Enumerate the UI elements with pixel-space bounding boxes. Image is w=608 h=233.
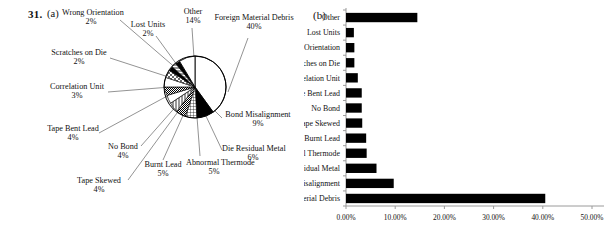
- bar-category-label: Scratches on Die: [304, 59, 340, 68]
- bar-burnt-lead: [346, 133, 366, 142]
- figure-number: 31.: [28, 8, 42, 20]
- pie-label-name: Scratches on Die: [51, 48, 106, 57]
- pie-label-lost-units: Lost Units 2%: [126, 20, 170, 39]
- x-axis-tick-label: 0.00%: [336, 213, 355, 222]
- bar-foreign-material-debris: [346, 194, 545, 203]
- x-axis-tick-label: 40.00%: [531, 213, 554, 222]
- bar-tape-bent-lead: [346, 88, 362, 97]
- pie-label-pct: 40%: [214, 22, 294, 31]
- pie-label-name: Foreign Material Debris: [214, 13, 293, 22]
- pie-label-pct: 2%: [62, 17, 120, 26]
- pie-label-wrong-orientation: Wrong Orientation 2%: [62, 8, 120, 27]
- pie-label-name: Tape Bent Lead: [47, 124, 99, 133]
- bar-no-bond: [346, 103, 362, 112]
- pie-label-name: Wrong Orientation: [62, 8, 124, 17]
- bar-category-label: Abnormal Thermode: [304, 149, 340, 158]
- bar-lost-units: [346, 28, 354, 37]
- pie-label-pct: 4%: [70, 185, 128, 194]
- pie-label-pct: 2%: [50, 57, 108, 66]
- pie-label-pct: 9%: [222, 119, 294, 128]
- pie-label-abnormal-thermode: Abnormal Thermode 5%: [186, 158, 242, 177]
- pie-chart: [163, 55, 227, 119]
- bar-correlation-unit: [346, 73, 358, 82]
- pie-label-no-bond: No Bond 4%: [102, 142, 144, 161]
- bar-chart-categories: OtherLost UnitsWrong OrientationScratche…: [304, 13, 341, 203]
- bar-bond-misalignment: [346, 179, 394, 188]
- pie-label-pct: 2%: [126, 29, 170, 38]
- panel-b-bar-figure: (b) OtherLost UnitsWrong OrientationScra…: [304, 0, 608, 233]
- bar-category-label: Foreign Material Debris: [304, 194, 340, 203]
- pie-label-pct: 5%: [186, 167, 242, 176]
- bar-category-label: Tape Skewed: [304, 119, 340, 128]
- bar-tape-skewed: [346, 118, 362, 127]
- bar-chart-tick-labels: 0.00%10.00%20.00%30.00%40.00%50.00%: [336, 213, 603, 222]
- bar-die-residual-metal: [346, 164, 377, 173]
- pie-label-name: Lost Units: [131, 20, 165, 29]
- bar-chart-bars: [346, 13, 545, 203]
- x-axis-tick-label: 50.00%: [581, 213, 604, 222]
- pie-label-name: Bond Misalignment: [225, 110, 290, 119]
- pie-label-name: Tape Skewed: [77, 176, 121, 185]
- bar-category-label: Die Residual Metal: [304, 164, 341, 173]
- pie-label-correlation-unit: Correlation Unit 3%: [48, 82, 106, 101]
- pie-label-burnt-lead: Burnt Lead 5%: [138, 160, 188, 179]
- pie-label-foreign-material-debris: Foreign Material Debris 40%: [214, 13, 294, 32]
- x-axis-tick-label: 30.00%: [482, 213, 505, 222]
- bar-category-label: Burnt Lead: [304, 134, 340, 143]
- pie-label-name: Burnt Lead: [144, 160, 181, 169]
- bar-category-label: Other: [322, 13, 340, 22]
- x-axis-tick-label: 20.00%: [433, 213, 456, 222]
- pie-label-bond-misalignment: Bond Misalignment 9%: [222, 110, 294, 129]
- pie-label-name: Other: [184, 7, 203, 16]
- pie-label-pct: 4%: [46, 133, 100, 142]
- pie-label-name: Correlation Unit: [50, 82, 104, 91]
- bar-wrong-orientation: [346, 43, 354, 52]
- x-axis-tick-label: 10.00%: [384, 213, 407, 222]
- bar-scratches-on-die: [346, 58, 354, 67]
- bar-category-label: Bond Misalignment: [304, 179, 341, 188]
- pie-label-pct: 3%: [48, 91, 106, 100]
- pie-label-pct: 14%: [176, 16, 210, 25]
- pie-label-other: Other 14%: [176, 7, 210, 26]
- pie-label-name: No Bond: [108, 142, 138, 151]
- bar-chart: OtherLost UnitsWrong OrientationScratche…: [304, 0, 608, 233]
- pie-label-name: Die Residual Metal: [222, 144, 286, 153]
- pie-label-name: Abnormal Thermode: [186, 158, 255, 167]
- panel-a-pie-figure: 31. (a): [0, 0, 304, 233]
- panel-a-label: (a): [47, 8, 59, 19]
- bar-category-label: Tape Bent Lead: [304, 89, 340, 98]
- bar-abnormal-thermode: [346, 149, 367, 158]
- bar-category-label: Wrong Orientation: [304, 43, 340, 52]
- pie-label-tape-skewed: Tape Skewed 4%: [70, 176, 128, 195]
- bar-category-label: Correlation Unit: [304, 74, 341, 83]
- bar-category-label: Lost Units: [307, 28, 340, 37]
- bar-other: [346, 13, 417, 22]
- pie-label-pct: 5%: [138, 169, 188, 178]
- pie-label-scratches-on-die: Scratches on Die 2%: [50, 48, 108, 67]
- pie-label-tape-bent-lead: Tape Bent Lead 4%: [46, 124, 100, 143]
- bar-category-label: No Bond: [311, 104, 340, 113]
